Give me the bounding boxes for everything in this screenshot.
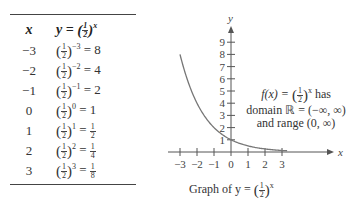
graph-caption: Graph of y = (12)x [189,181,274,199]
x-tick-label: −2 [191,158,203,170]
y-tick-label: 4 [220,97,226,109]
x-tick-label: −1 [208,158,220,170]
x-tick-label: −3 [174,158,186,170]
domain-range-annotation: f(x) = (12)x has domain ℝ = (−∞, ∞) and … [244,84,348,130]
x-tick-label: 0 [228,158,234,170]
y-tick-label: 3 [220,109,226,121]
y-tick-label: 7 [220,61,226,73]
y-tick-label: 6 [220,73,226,85]
y-axis-label: y [227,12,233,24]
x-tick-label: 1 [245,158,251,170]
x-axis-arrow-icon [327,149,334,155]
x-axis-label: x [337,146,343,158]
x-tick-label: 2 [262,158,268,170]
y-tick-label: 5 [220,85,226,97]
y-tick-label: 2 [220,122,226,134]
y-tick-label: 8 [220,48,226,60]
y-axis-arrow-icon [228,26,234,33]
x-tick-label: 3 [279,158,285,170]
y-tick-label: 9 [220,36,226,48]
